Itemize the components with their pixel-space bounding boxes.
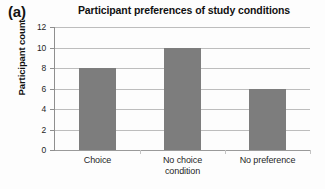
y-tick-label: 2 (18, 125, 46, 135)
y-tick-mark (50, 150, 54, 151)
y-tick-mark (50, 27, 54, 28)
figure-panel: (a) Participant preferences of study con… (0, 0, 325, 189)
x-tick-mark (140, 150, 141, 154)
gridline (55, 27, 310, 28)
bar[interactable] (79, 68, 116, 150)
x-label-line: Choice (53, 155, 143, 166)
y-tick-mark (50, 89, 54, 90)
y-tick-label: 6 (18, 84, 46, 94)
chart-title: Participant preferences of study conditi… (50, 4, 318, 16)
x-category-label: No choicecondition (138, 155, 228, 177)
x-category-label: Choice (53, 155, 143, 166)
bar[interactable] (249, 89, 286, 151)
x-tick-mark (225, 150, 226, 154)
x-label-line: condition (138, 166, 228, 177)
y-tick-label: 4 (18, 104, 46, 114)
y-tick-mark (50, 109, 54, 110)
gridline (55, 150, 310, 151)
y-tick-label: 8 (18, 63, 46, 73)
plot-area (55, 27, 310, 150)
y-tick-label: 12 (18, 22, 46, 32)
y-tick-mark (50, 48, 54, 49)
x-label-line: No preference (223, 155, 313, 166)
y-tick-label: 0 (18, 145, 46, 155)
x-category-label: No preference (223, 155, 313, 166)
x-label-line: No choice (138, 155, 228, 166)
bar[interactable] (164, 48, 201, 151)
y-tick-mark (50, 130, 54, 131)
y-tick-mark (50, 68, 54, 69)
y-tick-label: 10 (18, 43, 46, 53)
x-tick-mark (310, 150, 311, 154)
